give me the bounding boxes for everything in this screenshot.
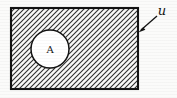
universe-hatch-fill (0, 0, 177, 98)
set-diagram-figure: A u (0, 0, 177, 98)
diagram-canvas: A u (0, 0, 177, 98)
set-a-label: A (45, 44, 54, 55)
universal-set-label: u (158, 3, 166, 18)
arrowhead-icon (138, 27, 145, 32)
leader-arrow (138, 16, 157, 32)
hatch-line-group (0, 0, 177, 98)
